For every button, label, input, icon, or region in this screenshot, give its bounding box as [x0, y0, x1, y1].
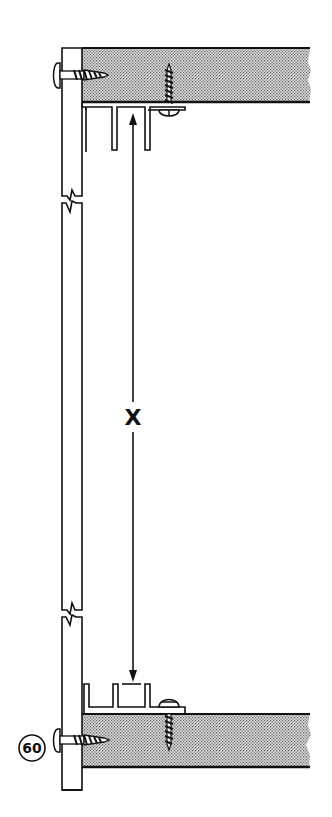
top-board: [82, 48, 311, 102]
dimension-arrow: X: [125, 113, 142, 682]
figure-callout: 60: [19, 735, 45, 761]
bottom-board: [82, 714, 311, 767]
callout-number: 60: [22, 740, 42, 756]
vertical-panel: [62, 48, 82, 790]
arrow-down-icon: [129, 670, 137, 682]
cabinet-track-diagram: X: [0, 0, 332, 817]
bottom-track: [84, 684, 185, 713]
dimension-label: X: [125, 405, 142, 430]
arrow-up-icon: [129, 113, 137, 125]
